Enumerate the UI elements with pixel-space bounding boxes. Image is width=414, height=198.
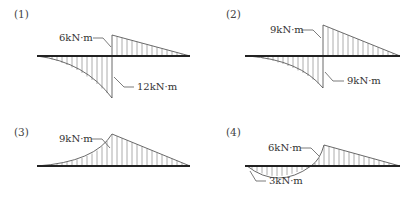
leader-1a (93, 38, 111, 47)
moment-diagram-4: (4) (226, 126, 400, 186)
hatching-positive-4 (315, 145, 394, 166)
leader-1b (114, 77, 134, 87)
leader-2a (301, 30, 321, 38)
leader-4b (250, 171, 266, 181)
moment-label-4a: 6kN·m (268, 142, 302, 153)
hatching-positive-2 (328, 27, 393, 56)
moment-label-1b: 12kN·m (137, 81, 178, 92)
moment-label-3: 9kN·m (59, 133, 93, 144)
leader-4a (300, 148, 319, 156)
moment-diagram-3: (3) (14, 126, 190, 166)
moment-label-4b: 3kN·m (269, 175, 303, 186)
diagram-number-3: (3) (14, 126, 29, 138)
diagram-number-1: (1) (14, 8, 29, 20)
moment-label-1a: 6kN·m (59, 32, 93, 43)
moment-diagram-2: (2) (226, 8, 400, 88)
diagram-number-2: (2) (226, 8, 241, 20)
moment-diagram-1: (1) (14, 8, 190, 98)
leader-2b (325, 72, 344, 81)
hatching-positive-1 (117, 36, 182, 56)
hatching-negative-1 (42, 56, 107, 93)
diagram-number-4: (4) (226, 126, 241, 138)
moment-label-2a: 9kN·m (270, 24, 304, 35)
moment-label-2b: 9kN·m (347, 75, 381, 86)
hatching-negative-2 (258, 56, 318, 84)
